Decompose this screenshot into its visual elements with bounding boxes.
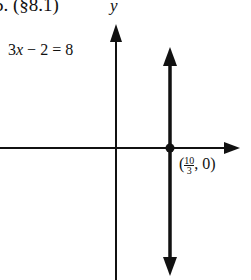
equation-label: 3x − 2 = 8 — [8, 41, 73, 59]
graph-figure: 5. (§8.1) y 3x − 2 = 8 (103, 0) — [0, 0, 251, 280]
equation-coef: 3 — [8, 41, 16, 58]
fraction-denominator: 3 — [184, 166, 194, 175]
problem-header: 5. (§8.1) — [0, 0, 59, 16]
point-label: (103, 0) — [179, 155, 216, 175]
x-intercept-point — [166, 144, 175, 153]
y-axis-label: y — [110, 0, 118, 16]
y-axis-arrow-icon — [110, 24, 122, 42]
equation-rest: − 2 = 8 — [23, 41, 73, 58]
x-axis-arrow-icon — [224, 142, 240, 154]
point-fraction: 103 — [184, 156, 194, 175]
point-rest: , 0) — [194, 155, 215, 172]
line-down-arrow-icon — [163, 257, 177, 276]
line-up-arrow-icon — [163, 47, 177, 66]
